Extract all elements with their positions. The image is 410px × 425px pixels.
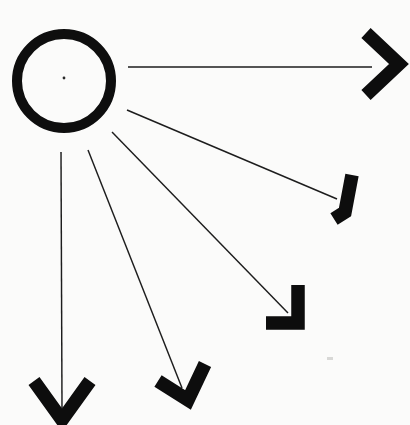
ray-south <box>61 152 62 408</box>
scan-speck <box>327 357 333 360</box>
radiating-arrows-figure <box>0 0 410 425</box>
center-dot <box>63 77 66 80</box>
diagram-canvas <box>0 0 410 425</box>
